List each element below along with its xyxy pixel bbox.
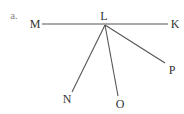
- point-label-o: O: [116, 97, 125, 111]
- point-label-l: L: [100, 9, 107, 23]
- ray-lp: [105, 25, 165, 63]
- point-label-k: K: [171, 17, 180, 31]
- angle-diagram: a. M K L N O P: [0, 0, 184, 114]
- point-label-n: N: [63, 92, 72, 106]
- point-label-p: P: [169, 63, 176, 77]
- point-label-m: M: [30, 17, 41, 31]
- ray-lo: [105, 25, 118, 96]
- ray-ln: [72, 25, 105, 92]
- part-label: a.: [10, 9, 18, 21]
